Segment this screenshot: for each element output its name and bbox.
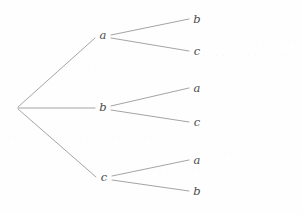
tree-node-level2-a-2: a <box>194 83 201 95</box>
tree-node-level2-c-3: c <box>194 117 200 129</box>
tree-node-level1-a-0: a <box>100 30 107 42</box>
tree-edge-b-to-c <box>111 110 189 122</box>
tree-node-level1-c-2: c <box>101 172 107 184</box>
tree-edge-c-to-b <box>112 180 189 191</box>
tree-edge-a-to-b <box>111 19 189 35</box>
tree-edge-b-to-a <box>111 88 189 106</box>
tree-node-level2-c-1: c <box>194 46 200 58</box>
tree-edge-a-to-c <box>111 38 189 51</box>
tree-node-level2-a-4: a <box>194 155 201 167</box>
tree-edge-c-to-a <box>112 160 189 176</box>
tree-diagram-figure: · · · · · · · · · · · · · ·· · · · · · ·… <box>0 0 302 214</box>
tree-node-level2-b-0: b <box>193 14 200 26</box>
tree-edge-root-to-c <box>18 109 96 177</box>
tree-node-level2-b-5: b <box>193 186 200 198</box>
tree-edge-root-to-a <box>18 38 95 107</box>
tree-edges <box>0 0 302 214</box>
tree-node-level1-b-1: b <box>99 102 106 114</box>
